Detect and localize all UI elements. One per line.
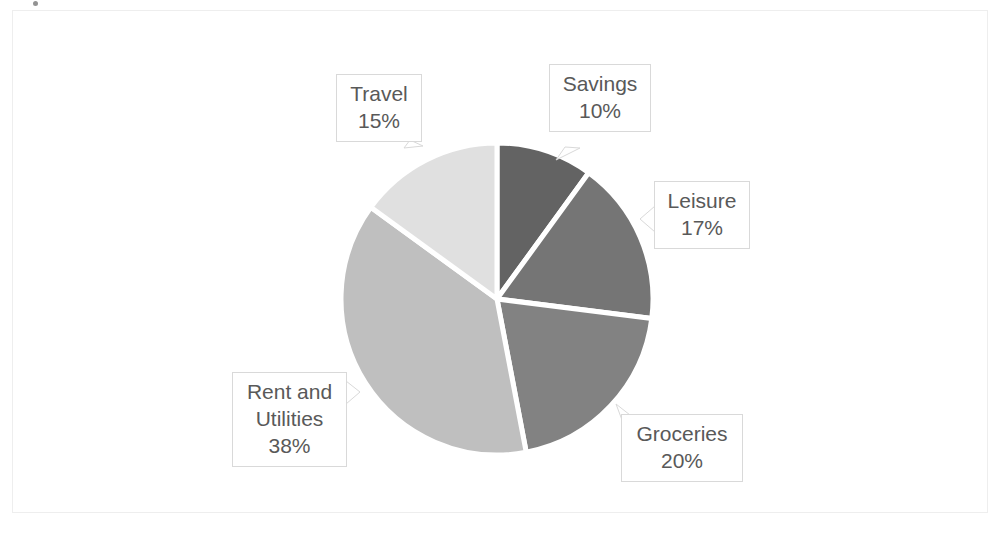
data-label-groceries-name: Groceries xyxy=(630,420,734,447)
pie-slices-group xyxy=(0,0,999,534)
data-label-groceries[interactable]: Groceries 20% xyxy=(621,414,743,482)
data-label-rent-name-line1: Rent and xyxy=(241,378,338,405)
data-label-travel-name: Travel xyxy=(345,80,413,107)
data-label-savings-name: Savings xyxy=(558,70,642,97)
pie-chart-container: Travel 15% Savings 10% Leisure 17% Groce… xyxy=(0,0,999,534)
data-label-leisure-value: 17% xyxy=(663,214,741,241)
data-label-savings[interactable]: Savings 10% xyxy=(549,64,651,132)
data-label-travel-value: 15% xyxy=(345,107,413,134)
data-label-leisure[interactable]: Leisure 17% xyxy=(654,181,750,249)
data-label-leisure-name: Leisure xyxy=(663,187,741,214)
data-label-travel[interactable]: Travel 15% xyxy=(336,74,422,142)
data-label-rent-and-utilities[interactable]: Rent and Utilities 38% xyxy=(232,372,347,467)
data-label-rent-value: 38% xyxy=(241,432,338,459)
data-label-savings-value: 10% xyxy=(558,97,642,124)
data-label-rent-name-line2: Utilities xyxy=(241,405,338,432)
data-label-groceries-value: 20% xyxy=(630,447,734,474)
